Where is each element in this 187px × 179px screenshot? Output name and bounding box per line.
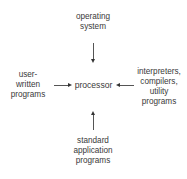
node-standard-application-programs: standard application programs [63,136,123,166]
node-user-written-programs: user- written programs [6,70,50,100]
arrow-down-icon [91,59,95,63]
node-label-line: written [6,80,50,90]
node-operating-system: operating system [63,12,123,32]
node-label-line: programs [133,97,185,107]
node-label-line: operating [63,12,123,22]
arrow-bottom-to-center-line [93,115,94,130]
node-label-line: standard [63,136,123,146]
node-label-line: programs [63,156,123,166]
node-label-line: interpreters, [133,67,185,77]
node-label-line: utility [133,87,185,97]
node-label-line: application [63,146,123,156]
node-interpreters-compilers-utility-programs: interpreters, compilers, utility program… [133,67,185,107]
arrow-left-to-center-line [54,85,69,86]
node-label-line: user- [6,70,50,80]
node-label: processor [70,80,117,90]
arrow-top-to-center-line [93,43,94,60]
arrow-right-to-center-line [120,85,134,86]
node-label-line: programs [6,90,50,100]
node-label-line: compilers, [133,77,185,87]
node-label-line: system [63,22,123,32]
node-processor: processor [70,80,117,90]
